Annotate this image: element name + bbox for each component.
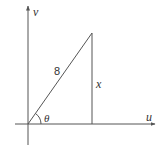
angle-label: θ	[44, 112, 50, 124]
u-axis-label: u	[146, 110, 152, 124]
diagram-canvas: v u 8 x θ	[0, 0, 160, 149]
angle-arc	[36, 114, 42, 125]
vertical-side-label: x	[95, 77, 102, 91]
hypotenuse-label: 8	[54, 65, 60, 77]
hypotenuse	[28, 33, 92, 124]
v-axis-label: v	[33, 5, 39, 19]
